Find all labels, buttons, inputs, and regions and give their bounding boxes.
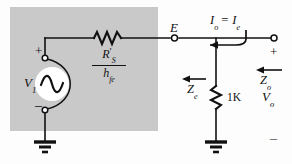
- source-label: V1: [24, 76, 36, 92]
- terminal-node-e: [172, 35, 178, 41]
- output-current-label: Io=Ie: [210, 14, 233, 30]
- output-voltage-label: Vo: [262, 90, 274, 106]
- terminal-source-negative: [42, 107, 48, 113]
- series-resistor-label: R′S hfe: [92, 48, 126, 82]
- impedance-arrow-ze: [182, 76, 206, 83]
- load-resistor-label: 1K: [227, 92, 241, 104]
- impedance-e-label: Ze: [187, 83, 198, 99]
- terminal-output-positive: [271, 35, 277, 41]
- node-e-label: E: [170, 21, 178, 34]
- impedance-o-label: Zo: [260, 74, 271, 90]
- ground-right: [205, 142, 227, 152]
- shaded-region: [10, 7, 158, 131]
- output-minus-sign: –: [270, 132, 277, 146]
- series-resistor-numerator: R′S: [92, 48, 126, 64]
- source-plus-sign: +: [35, 44, 42, 57]
- ac-voltage-source: [35, 67, 69, 101]
- output-plus-sign: +: [270, 45, 277, 58]
- source-minus-sign: –: [35, 99, 42, 113]
- terminal-source-positive: [42, 55, 48, 61]
- schematic-drawing: [0, 0, 292, 164]
- series-resistor-denominator: hfe: [92, 67, 126, 83]
- circuit-figure: V1 + – R′S hfe E Io=Ie Ze Zo 1K Vo + –: [0, 0, 292, 164]
- ground-left: [34, 142, 56, 152]
